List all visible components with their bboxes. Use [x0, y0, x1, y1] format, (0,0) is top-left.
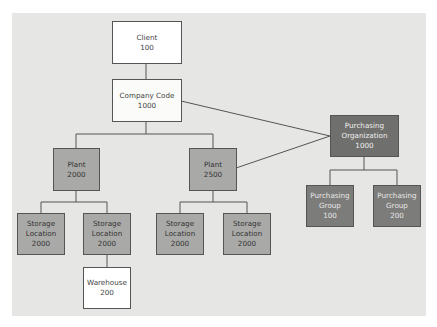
storage-title-1: Storage [93, 219, 121, 229]
warehouse-title: Warehouse [87, 278, 127, 288]
plant-2000-node: Plant 2000 [53, 148, 100, 191]
storage-location-node: Storage Location 2000 [17, 213, 65, 255]
plant-title: Plant [204, 160, 222, 170]
storage-title-2: Location [165, 229, 195, 239]
storage-code: 2000 [171, 239, 189, 249]
purch-group-code: 100 [323, 211, 337, 221]
plant-title: Plant [67, 160, 85, 170]
purchasing-group-100-node: Purchasing Group 100 [306, 185, 354, 227]
warehouse-node: Warehouse 200 [83, 267, 131, 309]
plant-2500-node: Plant 2500 [189, 148, 237, 191]
client-code: 100 [140, 43, 154, 53]
purchasing-group-200-node: Purchasing Group 200 [373, 185, 421, 227]
storage-title-2: Location [26, 229, 56, 239]
plant-code: 2500 [204, 170, 222, 180]
company-code-title: Company Code [120, 91, 175, 101]
storage-code: 2000 [32, 239, 50, 249]
storage-title-2: Location [232, 229, 262, 239]
storage-location-node: Storage Location 2000 [156, 213, 204, 255]
storage-title-1: Storage [27, 219, 55, 229]
purch-org-title-2: Organization [342, 131, 388, 141]
company-code-node: Company Code 1000 [112, 79, 182, 122]
storage-location-node: Storage Location 2000 [223, 213, 271, 255]
purch-group-title-1: Purchasing [310, 191, 349, 201]
purch-org-code: 1000 [355, 141, 373, 151]
storage-title-2: Location [92, 229, 122, 239]
storage-title-1: Storage [166, 219, 194, 229]
client-title: Client [137, 33, 158, 43]
warehouse-code: 200 [100, 288, 114, 298]
company-code-code: 1000 [138, 101, 156, 111]
purch-group-title-1: Purchasing [377, 191, 416, 201]
purch-group-title-2: Group [319, 201, 341, 211]
storage-location-node: Storage Location 2000 [83, 213, 131, 255]
client-node: Client 100 [112, 21, 182, 64]
purch-org-title-1: Purchasing [345, 121, 384, 131]
purch-group-title-2: Group [386, 201, 408, 211]
storage-title-1: Storage [233, 219, 261, 229]
storage-code: 2000 [98, 239, 116, 249]
plant-code: 2000 [67, 170, 85, 180]
purchasing-organization-node: Purchasing Organization 1000 [330, 115, 399, 157]
storage-code: 2000 [238, 239, 256, 249]
purch-group-code: 200 [390, 211, 404, 221]
